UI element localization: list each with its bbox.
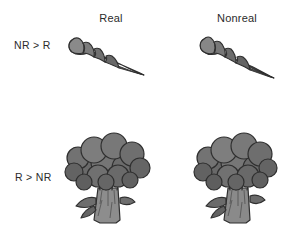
column-header-real: Real xyxy=(73,12,149,24)
broccoli-nonreal-drawing xyxy=(188,128,280,226)
stimulus-figure: Real Nonreal NR > R R > NR xyxy=(0,0,293,234)
broccoli-real-drawing xyxy=(62,128,154,226)
row-label-nr-greater-r: NR > R xyxy=(14,39,51,51)
column-header-nonreal: Nonreal xyxy=(199,12,275,24)
row-label-r-greater-nr: R > NR xyxy=(15,171,52,183)
carrot-real-drawing xyxy=(62,28,152,80)
carrot-nonreal-drawing xyxy=(192,28,282,80)
